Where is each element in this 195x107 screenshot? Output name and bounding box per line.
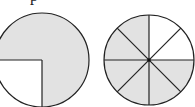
circle-eighths [104, 15, 194, 105]
left-circle-unshaded-quadrant [0, 60, 42, 107]
right-circle-center-dot [147, 58, 151, 62]
circle-quarters [0, 13, 89, 107]
fraction-circles-diagram [0, 0, 195, 107]
